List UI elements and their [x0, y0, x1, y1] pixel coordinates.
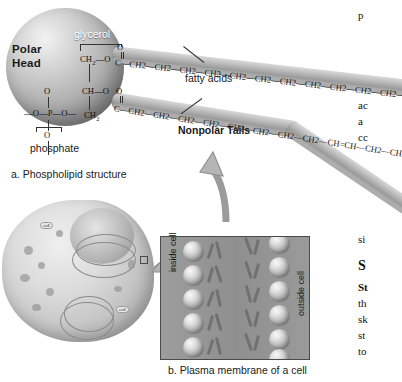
golgi-lower-2	[60, 302, 114, 340]
phospholipid-head	[269, 305, 290, 326]
phospholipid-tail	[245, 285, 253, 303]
ester-double-bond-lower-b	[122, 96, 123, 103]
phospholipid-tail	[253, 287, 261, 303]
phosphate-bracket-top	[36, 127, 62, 128]
phosphate-o-bottom: O	[44, 130, 50, 140]
golgi-upper-2	[72, 242, 136, 278]
phospholipid-tail	[207, 315, 214, 331]
inside-cell-label: inside cell	[168, 232, 178, 272]
margin-body-line-4: st	[358, 328, 365, 344]
margin-body-line-2: th	[358, 296, 367, 312]
margin-text-si: si	[358, 232, 365, 248]
glycerol-label: glycerol	[74, 28, 110, 40]
phospholipid-tail	[215, 289, 222, 307]
margin-body-line-3: sk	[358, 312, 368, 328]
cell-tag-label: cell	[116, 306, 129, 313]
phospholipid-head	[269, 257, 290, 278]
phosphate-chain: —O—P—O—	[24, 108, 76, 118]
margin-body-line-5: to	[358, 344, 367, 360]
phosphate-bond-o-top	[48, 97, 49, 108]
organelle-vesicle	[20, 274, 30, 282]
phospholipid-tail	[215, 337, 222, 355]
organelle-vesicle	[56, 230, 63, 237]
organelle-vesicle	[114, 286, 122, 292]
organelle-vesicle	[24, 246, 33, 255]
glycerol-bracket-left	[80, 44, 81, 51]
phospholipid-head	[269, 281, 290, 302]
ester-double-bond-lower	[120, 96, 121, 103]
ester-carbonyl-o-upper: O	[117, 42, 123, 52]
figure-phospholipid-and-membrane: Polar Head glycerol CH2—O CH—O CH2 O —O—…	[0, 0, 402, 382]
polar-head-label-line2: Head	[12, 56, 76, 70]
phospholipid-tail	[214, 265, 222, 283]
margin-text-a: a	[358, 114, 363, 130]
outside-cell-label: outside cell	[296, 271, 306, 316]
glycerol-ch2-o-upper: CH2—O	[80, 54, 110, 66]
organelle-vesicle	[32, 304, 41, 311]
margin-text-cc: cc	[358, 130, 368, 146]
phosphate-o-top: O	[44, 86, 50, 96]
glycerol-ch2-lower: CH2	[84, 110, 99, 122]
phospholipid-head	[269, 236, 290, 254]
glycerol-backbone-bond-1	[89, 64, 90, 82]
phospholipid-tail	[207, 267, 214, 283]
fatty-acids-label: fatty acids	[185, 72, 232, 84]
phospholipid-tail	[206, 291, 214, 307]
phospholipid-tail	[244, 237, 253, 255]
phospholipid-head	[183, 313, 204, 334]
cell-illustration: cell cell	[2, 200, 154, 342]
phosphate-bracket-right	[61, 127, 62, 132]
nonpolar-tails-label: Nonpolar Tails	[178, 124, 250, 136]
phospholipid-tail	[207, 339, 215, 355]
phospholipid-tail	[244, 309, 252, 327]
polar-head-label-line1: Polar	[12, 42, 76, 56]
margin-text-ac: ac	[358, 98, 368, 114]
phospholipid-tail	[253, 335, 260, 351]
phospholipid-tail	[253, 263, 260, 279]
phospholipid-tail	[207, 243, 215, 259]
glycerol-backbone-bond-2	[89, 96, 90, 110]
phospholipid-head	[183, 289, 204, 310]
margin-text-top: p	[358, 8, 364, 24]
phospholipid-tail	[215, 313, 223, 331]
ester-carbonyl-o-lower: O	[116, 86, 122, 96]
organelle-vesicle	[46, 288, 54, 296]
cell-zoom-marker	[140, 256, 148, 264]
margin-heading: S	[358, 258, 366, 274]
caption-panel-a: a. Phospholipid structure	[11, 168, 127, 180]
phospholipid-head	[183, 337, 204, 358]
phospholipid-tail	[215, 241, 222, 259]
phospholipid-head	[269, 329, 290, 350]
phospholipid-tail	[244, 333, 253, 351]
organelle-vesicle	[128, 260, 135, 269]
phospholipid-head	[183, 265, 204, 286]
phospholipid-tail	[253, 311, 260, 327]
caption-panel-b: b. Plasma membrane of a cell	[168, 364, 307, 376]
phospholipid-tail	[244, 261, 252, 279]
phosphate-label: phosphate	[30, 142, 79, 154]
margin-body-line-1: St	[358, 280, 368, 296]
phospholipid-head	[269, 349, 290, 360]
cell-tag-label: cell	[40, 222, 53, 229]
glycerol-ch-o: CH—O	[82, 86, 109, 96]
organelle-vesicle	[38, 262, 45, 269]
phospholipid-tail	[253, 239, 260, 255]
polar-head-label: Polar Head	[12, 42, 76, 70]
glycerol-bracket-top	[80, 44, 122, 45]
phospholipid-head	[183, 241, 204, 262]
membrane-bilayer-diagram	[160, 236, 310, 360]
magnify-arrow-icon	[196, 150, 240, 222]
